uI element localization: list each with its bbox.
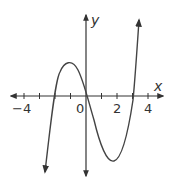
cubic-function-graph: −4 0 2 4 x y	[0, 0, 170, 191]
x-tick-label-neg4: −4	[12, 101, 31, 116]
x-tick-label-2: 2	[113, 101, 121, 116]
x-tick-label-0: 0	[76, 101, 84, 116]
x-tick-label-4: 4	[144, 101, 152, 116]
x-axis-label: x	[153, 78, 163, 94]
y-axis-label: y	[90, 12, 100, 28]
